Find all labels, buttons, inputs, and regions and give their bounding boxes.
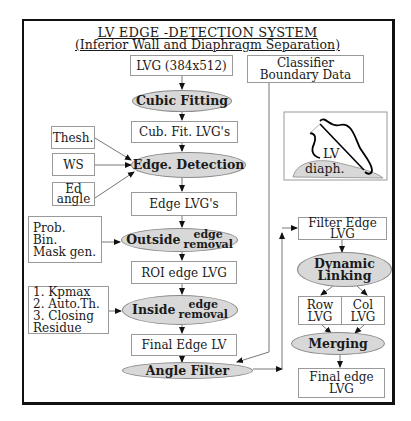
node-classifier-boundary-data: Classifier Boundary Data — [247, 55, 364, 83]
diagram-subtitle: (Inferior Wall and Diaphragm Separation) — [22, 39, 393, 52]
node-final-edge-lvg: Final edge LVG — [298, 368, 385, 398]
arrow-edangle-to-edgedet — [95, 172, 134, 198]
input-ws: WS — [52, 153, 95, 176]
arrow-dynamic-to-col — [357, 286, 367, 295]
node-cubic-fitting: Cubic Fitting — [132, 90, 232, 112]
node-angle-filter: Angle Filter — [122, 362, 253, 379]
outside-prefix: Outside — [126, 234, 180, 246]
arrow-dynamic-to-row — [321, 286, 333, 295]
input-prob-bin-mask: Prob. Bin. Mask gen. — [28, 216, 102, 263]
node-col-lvg: Col LVG — [341, 296, 385, 325]
node-roi-edge-lvg: ROI edge LVG — [131, 261, 237, 284]
outside-suffix-bottom: removal — [183, 238, 232, 251]
node-lvg-input: LVG (384x512) — [130, 55, 233, 76]
inset-diaph-label: diaph. — [305, 161, 344, 176]
node-dynamic-linking: Dynamic Linking — [297, 252, 392, 287]
arrow-col-to-merging — [355, 325, 364, 333]
node-outside-edge-removal: Outside edgeremoval — [121, 228, 238, 252]
inside-suffix-bottom: removal — [178, 308, 227, 321]
arrow-classifier-to-angle — [237, 81, 269, 362]
node-edge-detection: Edge. Detection — [131, 152, 246, 178]
outside-suffix: edgeremoval — [183, 230, 232, 250]
node-filter-edge-lvg: Filter Edge LVG — [298, 217, 387, 240]
node-cub-fit-lvgs: Cub. Fit. LVG's — [131, 121, 238, 143]
inset-lv-label: LV — [323, 146, 339, 161]
node-merging: Merging — [291, 332, 385, 355]
inside-prefix: Inside — [132, 304, 175, 316]
node-edge-lvgs: Edge LVG's — [131, 192, 237, 216]
input-ed-angle: Ed angle — [52, 182, 95, 206]
node-inside-edge-removal: Inside edgeremoval — [122, 295, 238, 325]
node-final-edge-lv: Final Edge LV — [131, 334, 237, 356]
node-row-lvg: Row LVG — [298, 296, 342, 325]
input-kpmax-list: 1. Kpmax 2. Auto.Th. 3. Closing Residue — [28, 286, 109, 334]
arrow-thresh-to-edgedet — [95, 138, 131, 160]
input-thresh: Thesh. — [51, 126, 95, 149]
inside-suffix: edgeremoval — [178, 300, 227, 320]
